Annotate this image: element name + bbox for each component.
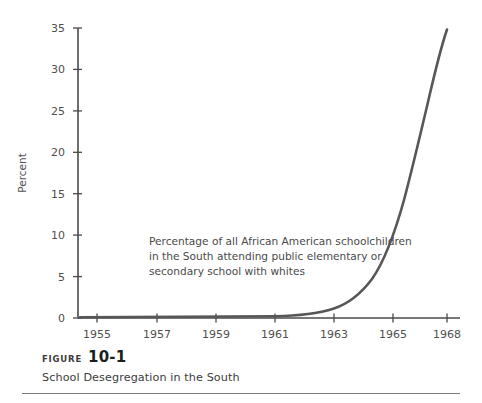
annotation-line: Percentage of all African American schoo… <box>149 235 412 247</box>
figure-caption-block: FIGURE 10-1 School Desegregation in the … <box>42 348 462 384</box>
y-tick-label: 20 <box>51 146 65 159</box>
y-tick-label: 5 <box>58 271 65 284</box>
annotation-line: in the South attending public elementary… <box>149 250 382 262</box>
x-tick-label: 1957 <box>143 328 171 340</box>
x-axis-tick-labels: 1955 1957 1959 1961 1963 1965 1968 <box>83 328 461 340</box>
line-chart: 35 30 25 20 15 10 5 0 Percent <box>0 0 482 340</box>
y-tick-label: 15 <box>51 188 65 201</box>
figure-label: FIGURE <box>42 354 82 364</box>
chart-area: 35 30 25 20 15 10 5 0 Percent <box>0 0 482 340</box>
y-tick-label: 30 <box>51 63 65 76</box>
x-tick-label: 1959 <box>202 328 230 340</box>
y-tick-label: 0 <box>58 312 65 325</box>
x-tick-label: 1963 <box>320 328 348 340</box>
annotation-line: secondary school with whites <box>149 265 305 277</box>
caption-divider <box>22 393 460 394</box>
y-tick-label: 25 <box>51 105 65 118</box>
x-tick-label: 1965 <box>379 328 407 340</box>
x-tick-label: 1955 <box>83 328 111 340</box>
figure-title: School Desegregation in the South <box>42 371 462 384</box>
figure-number: 10-1 <box>88 348 126 366</box>
y-tick-label: 10 <box>51 229 65 242</box>
x-tick-label: 1961 <box>261 328 289 340</box>
figure-number-line: FIGURE 10-1 <box>42 348 462 366</box>
chart-annotation: Percentage of all African American schoo… <box>149 235 412 277</box>
figure-container: 35 30 25 20 15 10 5 0 Percent <box>0 0 482 403</box>
x-tick-label: 1968 <box>433 328 461 340</box>
y-tick-label: 35 <box>51 22 65 35</box>
y-axis-tick-labels: 35 30 25 20 15 10 5 0 <box>51 22 65 325</box>
y-axis-title: Percent <box>16 153 28 193</box>
